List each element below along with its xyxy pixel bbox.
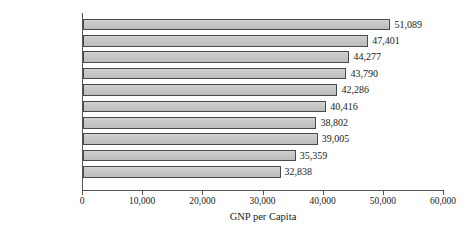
x-axis-tick	[202, 191, 203, 195]
bar-row[interactable]: Kuwait40,416	[0, 99, 472, 115]
x-axis-title: GNP per Capita	[82, 211, 444, 222]
bar[interactable]	[83, 51, 349, 63]
bar[interactable]	[83, 35, 368, 47]
bar-row[interactable]: Denmark43,790	[0, 66, 472, 82]
chart-title	[0, 0, 472, 2]
bar[interactable]	[83, 133, 318, 145]
x-axis-tick-label: 30,000	[249, 196, 275, 206]
x-axis-tick	[82, 191, 83, 195]
x-axis-tick-label: 50,000	[370, 196, 396, 206]
bar-value-label: 39,005	[322, 131, 350, 147]
bar[interactable]	[83, 101, 326, 113]
x-axis-tick	[443, 191, 444, 195]
bar-row[interactable]: United States39,005	[0, 131, 472, 147]
bar-value-label: 32,838	[285, 164, 313, 180]
bar-row[interactable]: Japan38,802	[0, 115, 472, 131]
x-axis-tick	[323, 191, 324, 195]
x-axis-tick-label: 60,000	[430, 196, 456, 206]
bar-row[interactable]: Norway51,089	[0, 17, 472, 33]
bar[interactable]	[83, 68, 346, 80]
bar-chart-figure: 010,00020,00030,00040,00050,00060,000 GN…	[0, 0, 472, 241]
bar-value-label: 51,089	[394, 17, 422, 33]
x-axis-tick	[383, 191, 384, 195]
bar[interactable]	[83, 117, 316, 129]
bar-value-label: 43,790	[350, 66, 378, 82]
bar-value-label: 47,401	[372, 33, 400, 49]
bar-row[interactable]: Luxembourg44,277	[0, 49, 472, 65]
bar-row[interactable]: Finland32,838	[0, 164, 472, 180]
bar-value-label: 40,416	[330, 99, 358, 115]
bar[interactable]	[83, 84, 337, 96]
bar-value-label: 35,359	[300, 148, 328, 164]
x-axis-tick-label: 0	[80, 196, 85, 206]
bar-row[interactable]: Switzerland42,286	[0, 82, 472, 98]
x-axis-tick-label: 10,000	[129, 196, 155, 206]
x-axis-tick	[263, 191, 264, 195]
bar-row[interactable]: Singapore47,401	[0, 33, 472, 49]
bar-value-label: 44,277	[353, 49, 381, 65]
bar-value-label: 38,802	[320, 115, 348, 131]
x-axis-tick-label: 20,000	[189, 196, 215, 206]
x-axis-tick	[142, 191, 143, 195]
bar-row[interactable]: Ireland35,359	[0, 148, 472, 164]
bar[interactable]	[83, 19, 390, 31]
bar[interactable]	[83, 150, 296, 162]
bar-value-label: 42,286	[341, 82, 369, 98]
x-axis-tick-label: 40,000	[310, 196, 336, 206]
bar[interactable]	[83, 166, 281, 178]
